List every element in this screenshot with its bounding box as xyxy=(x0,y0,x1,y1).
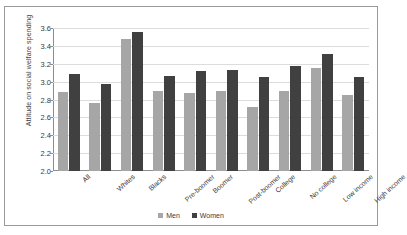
bar-men-all xyxy=(58,92,69,171)
bar-men-blacks xyxy=(121,39,132,171)
bar-women-blacks xyxy=(132,32,143,171)
legend-swatch-men xyxy=(158,213,163,218)
bar-women-high-income xyxy=(354,77,365,171)
legend-label: Men xyxy=(166,212,180,219)
x-axis-label-pre-boomer: Pre-boomer xyxy=(183,173,215,203)
bar-group xyxy=(116,28,148,171)
x-axis-labels: AllWhitesBlacksPre-boomerBoomerPost-boom… xyxy=(53,173,369,217)
bar-women-all xyxy=(69,74,80,171)
bar-women-boomer xyxy=(196,71,207,171)
bar-group xyxy=(148,28,180,171)
chart-legend: MenWomen xyxy=(5,212,377,219)
x-axis-label-high-income: High income xyxy=(373,173,407,204)
bar-women-low-income xyxy=(322,54,333,171)
bar-group xyxy=(306,28,338,171)
legend-item-men[interactable]: Men xyxy=(158,212,180,219)
chart-frame: Attitude on social welfare spending 2.02… xyxy=(4,6,378,226)
x-axis-label-whites: Whites xyxy=(116,173,137,193)
legend-swatch-women xyxy=(192,213,197,218)
bar-women-post-boomer xyxy=(227,70,238,171)
bar-group xyxy=(179,28,211,171)
bar-men-boomer xyxy=(184,93,195,171)
bar-men-college xyxy=(247,107,258,171)
bar-men-low-income xyxy=(311,68,322,171)
bar-group xyxy=(85,28,117,171)
y-axis-title: Attitude on social welfare spending xyxy=(25,0,32,146)
bar-women-pre-boomer xyxy=(164,76,175,171)
bar-group xyxy=(53,28,85,171)
bar-women-whites xyxy=(101,84,112,171)
bar-group xyxy=(243,28,275,171)
x-axis-label-no-college: No college xyxy=(308,173,337,200)
x-axis-label-all: All xyxy=(81,173,91,183)
plot-area: 2.02.22.42.62.83.03.23.43.6 xyxy=(53,28,369,171)
bar-men-no-college xyxy=(279,91,290,171)
bar-group xyxy=(211,28,243,171)
bar-women-no-college xyxy=(290,66,301,171)
bar-men-high-income xyxy=(342,95,353,171)
x-axis-label-low-income: Low income xyxy=(341,173,373,203)
bar-men-pre-boomer xyxy=(153,91,164,171)
bar-group xyxy=(337,28,369,171)
x-axis-label-boomer: Boomer xyxy=(211,173,234,195)
bar-women-college xyxy=(259,77,270,171)
bar-men-whites xyxy=(89,103,100,171)
x-axis-label-blacks: Blacks xyxy=(147,173,167,192)
legend-item-women[interactable]: Women xyxy=(192,212,224,219)
bar-men-post-boomer xyxy=(216,91,227,171)
bar-group xyxy=(274,28,306,171)
legend-label: Women xyxy=(200,212,224,219)
y-axis-tick-mark xyxy=(50,171,53,172)
